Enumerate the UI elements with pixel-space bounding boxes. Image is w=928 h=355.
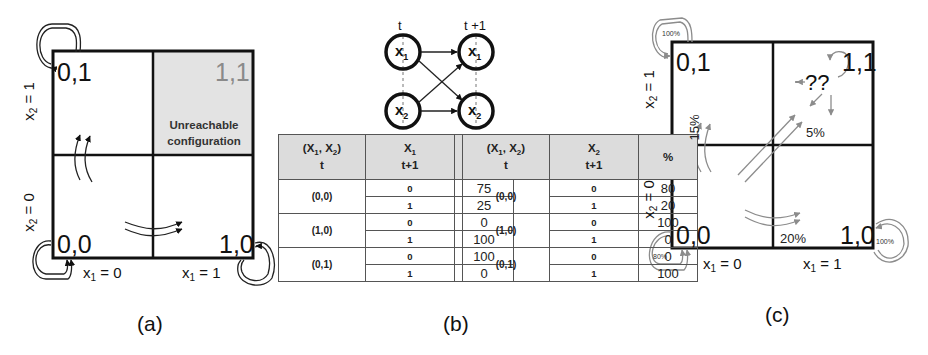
header-state: (X1, X2)t (279, 135, 366, 180)
node-x2-t-plus-1: x2 (468, 101, 481, 121)
panel-a-cell-10-label: 1,0 (219, 232, 254, 257)
panel-c-x1-axis-0: x1 = 0 (703, 255, 742, 274)
state-cell: (1,0) (463, 214, 550, 248)
panel-c-cell-11-label: 1,1 (842, 50, 877, 75)
value-cell: 1 (550, 265, 639, 282)
value-cell: 1 (366, 231, 455, 248)
panel-c-x1-axis-1: x1 = 1 (803, 255, 842, 274)
header-pct: % (639, 135, 698, 180)
self-loop-00-percent: 80% (653, 253, 667, 260)
header-var: X2t+1 (550, 135, 639, 180)
value-cell: 1 (366, 197, 455, 214)
value-cell: 0 (366, 214, 455, 231)
transition-00-to-10-percent: 20% (780, 231, 806, 246)
header-var-sub: t+1 (402, 159, 419, 171)
value-cell: 0 (550, 248, 639, 265)
panel-c-cell-01-label: 0,1 (676, 50, 711, 75)
value-cell: 0 (366, 180, 455, 197)
value-cell: 1 (550, 231, 639, 248)
value-cell: 0 (550, 214, 639, 231)
panel-c-caption: (c) (765, 303, 790, 327)
panel-a-cell-11-label: 1,1 (215, 60, 250, 85)
header-state-sub: t (504, 159, 508, 171)
panel-b-caption: (b) (443, 312, 469, 336)
value-cell: 0 (366, 248, 455, 265)
state-cell: (0,1) (279, 248, 366, 282)
panel-c-arrow-00-to-11 (738, 115, 802, 182)
self-loop-01-percent: 100% (662, 30, 680, 37)
percent-cell: 0 (639, 248, 698, 265)
time-label-t: t (398, 18, 402, 33)
percent-cell: 100 (639, 265, 698, 282)
value-cell: 1 (550, 197, 639, 214)
panel-a-x1-axis-1: x1 = 1 (182, 264, 221, 283)
node-x1-t-plus-1: x1 (468, 42, 481, 62)
value-cell: 0 (550, 180, 639, 197)
panel-c-x2-axis-0: x2 = 0 (640, 180, 659, 219)
panel-a-x2-axis-0: x2 = 0 (20, 193, 39, 232)
panel-a-x1-axis-0: x1 = 0 (83, 264, 122, 283)
value-cell: 1 (366, 265, 455, 282)
panel-a-x2-axis-1: x2 = 1 (20, 82, 39, 121)
state-cell: (1,0) (279, 214, 366, 248)
header-state: (X1, X2)t (463, 135, 550, 180)
panel-c-cell-10-label: 1,0 (840, 223, 875, 248)
state-cell: (0,1) (463, 248, 550, 282)
transition-00-to-11-percent: 5% (806, 125, 825, 140)
unreachable-line-1: Unreachable (160, 118, 248, 134)
self-loop-10-percent: 100% (876, 238, 894, 245)
header-var-sub: t+1 (586, 159, 603, 171)
node-x1-t: x1 (395, 42, 408, 62)
panel-a-arrow-00-to-01 (75, 135, 92, 182)
table-row: (1,0) 0 100 (463, 214, 698, 231)
panel-c-cell-00-label: 0,0 (676, 223, 711, 248)
panel-a-caption: (a) (137, 312, 163, 336)
table-row: (0,0) 0 80 (463, 180, 698, 197)
header-state-sub: t (320, 159, 324, 171)
state-cell: (0,0) (279, 180, 366, 214)
unknown-transition-label: ?? (805, 70, 829, 96)
panel-a-cell-00-label: 0,0 (57, 232, 92, 257)
unreachable-configuration-label: Unreachable configuration (160, 118, 248, 149)
cpt-header-row: (X1, X2)t X2t+1 % (463, 135, 698, 180)
panel-c-x2-axis-1: x2 = 1 (640, 70, 659, 109)
panel-a-cell-01-label: 0,1 (57, 60, 92, 85)
time-label-t-plus-1: t +1 (464, 18, 486, 33)
node-x2-t: x2 (395, 101, 408, 121)
header-var: X1t+1 (366, 135, 455, 180)
state-cell: (0,0) (463, 180, 550, 214)
unreachable-line-2: configuration (160, 134, 248, 150)
transition-00-to-01-percent: 15% (687, 114, 702, 140)
